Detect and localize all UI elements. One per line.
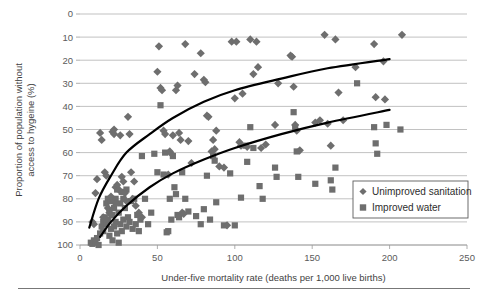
data-point-improved-water <box>139 153 145 159</box>
data-point-unimproved-sanitation <box>372 93 380 101</box>
y-tick-label-100: 0 <box>68 8 73 19</box>
data-point-unimproved-sanitation <box>96 129 104 137</box>
x-tick-labels: 050100150200250 <box>77 252 475 263</box>
data-point-unimproved-sanitation <box>331 35 339 43</box>
data-point-improved-water <box>126 219 132 225</box>
chart-figure: 1009080706050403020100 050100150200250 U… <box>0 0 487 299</box>
data-point-improved-water <box>232 222 238 228</box>
data-point-improved-water <box>247 124 253 130</box>
data-point-improved-water <box>151 151 157 157</box>
data-point-unimproved-sanitation <box>212 127 220 135</box>
data-point-improved-water <box>238 195 244 201</box>
data-point-unimproved-sanitation <box>232 38 240 46</box>
data-point-unimproved-sanitation <box>254 63 262 71</box>
data-point-unimproved-sanitation <box>238 90 246 98</box>
x-axis-title: Under-five mortality rate (deaths per 1,… <box>161 272 385 283</box>
data-point-improved-water <box>250 145 256 151</box>
x-tick-label-100: 100 <box>227 252 243 263</box>
y-tick-marks <box>76 14 80 245</box>
data-point-improved-water <box>291 109 297 115</box>
data-point-improved-water <box>227 170 233 176</box>
data-point-unimproved-sanitation <box>91 189 99 197</box>
data-point-improved-water <box>332 165 338 171</box>
data-point-improved-water <box>182 196 188 202</box>
y-tick-label-20: 80 <box>62 193 73 204</box>
data-point-improved-water <box>354 80 360 86</box>
data-point-unimproved-sanitation <box>190 70 198 78</box>
data-point-unimproved-sanitation <box>116 131 124 139</box>
data-point-unimproved-sanitation <box>249 70 257 78</box>
data-point-improved-water <box>212 158 218 164</box>
x-tick-label-250: 250 <box>459 252 475 263</box>
data-point-improved-water <box>328 177 334 183</box>
data-point-improved-water <box>148 210 154 216</box>
data-point-improved-water <box>173 191 179 197</box>
data-point-improved-water <box>201 206 207 212</box>
data-point-improved-water <box>145 221 151 227</box>
legend-label-unimproved-sanitation[interactable]: Unimproved sanitation <box>372 186 472 197</box>
data-point-improved-water <box>373 140 379 146</box>
series-improved-water-points <box>88 80 404 248</box>
data-point-unimproved-sanitation <box>327 142 335 150</box>
data-point-improved-water <box>273 174 279 180</box>
data-point-unimproved-sanitation <box>98 136 106 144</box>
x-tick-label-150: 150 <box>304 252 320 263</box>
data-point-improved-water <box>244 159 250 165</box>
x-tick-label-200: 200 <box>382 252 398 263</box>
data-point-improved-water <box>154 169 160 175</box>
data-point-unimproved-sanitation <box>197 49 205 57</box>
data-point-improved-water <box>207 216 213 222</box>
x-tick-label-50: 50 <box>152 252 163 263</box>
data-point-unimproved-sanitation <box>290 83 298 91</box>
data-point-improved-water <box>371 124 377 130</box>
data-point-unimproved-sanitation <box>334 88 342 96</box>
data-point-unimproved-sanitation <box>155 42 163 50</box>
data-point-unimproved-sanitation <box>125 130 133 138</box>
y-tick-label-70: 30 <box>62 78 73 89</box>
data-point-improved-water <box>95 242 101 248</box>
data-point-improved-water <box>198 221 204 227</box>
data-point-unimproved-sanitation <box>271 121 279 129</box>
data-point-improved-water <box>157 102 163 108</box>
data-point-unimproved-sanitation <box>398 31 406 39</box>
data-point-unimproved-sanitation <box>209 136 217 144</box>
data-point-improved-water <box>312 181 318 187</box>
data-point-improved-water <box>193 213 199 219</box>
data-point-unimproved-sanitation <box>184 137 192 145</box>
legend-label-improved-water[interactable]: Improved water <box>372 202 442 213</box>
data-point-unimproved-sanitation <box>130 177 138 185</box>
data-point-improved-water <box>374 151 380 157</box>
data-point-improved-water <box>204 173 210 179</box>
y-tick-label-0: 100 <box>57 239 73 250</box>
data-point-unimproved-sanitation <box>153 68 161 76</box>
data-point-improved-water <box>136 228 142 234</box>
data-point-improved-water <box>272 165 278 171</box>
data-point-unimproved-sanitation <box>181 40 189 48</box>
data-point-improved-water <box>329 186 335 192</box>
data-point-improved-water <box>213 199 219 205</box>
data-point-unimproved-sanitation <box>177 136 185 144</box>
data-point-improved-water <box>171 184 177 190</box>
legend-marker-square-icon <box>360 204 366 210</box>
y-tick-label-90: 10 <box>62 32 73 43</box>
scatter-plot: 1009080706050403020100 050100150200250 U… <box>0 0 487 299</box>
data-point-improved-water <box>397 126 403 132</box>
data-point-unimproved-sanitation <box>231 94 239 102</box>
y-tick-label-50: 50 <box>62 124 73 135</box>
y-tick-labels: 1009080706050403020100 <box>57 8 73 250</box>
x-tick-marks <box>80 245 467 249</box>
data-point-unimproved-sanitation <box>320 31 328 39</box>
data-point-improved-water <box>165 228 171 234</box>
y-tick-label-30: 70 <box>62 170 73 181</box>
data-point-improved-water <box>256 183 262 189</box>
data-point-improved-water <box>167 196 173 202</box>
y-tick-label-60: 40 <box>62 101 73 112</box>
data-point-improved-water <box>142 196 148 202</box>
chart-legend[interactable]: Unimproved sanitationImproved water <box>353 181 472 218</box>
data-point-improved-water <box>168 216 174 222</box>
x-tick-label-0: 0 <box>77 252 82 263</box>
y-tick-label-40: 60 <box>62 147 73 158</box>
data-point-improved-water <box>260 196 266 202</box>
data-point-improved-water <box>295 174 301 180</box>
data-point-improved-water <box>109 237 115 243</box>
